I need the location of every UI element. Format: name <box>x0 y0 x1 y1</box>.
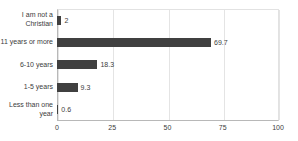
category-label-text: 11 years or more <box>1 38 53 47</box>
x-axis-tick-labels: 0 25 50 75 100 <box>57 124 279 136</box>
category-label-text: I am not a Christian <box>0 11 53 29</box>
category-label: I am not a Christian <box>0 9 53 31</box>
bar-series: 2 69.7 18.3 9.3 0.6 <box>57 9 279 121</box>
x-tick-label: 75 <box>219 124 227 131</box>
x-tick-label: 50 <box>164 124 172 131</box>
category-label: 1-5 years <box>0 76 53 98</box>
gridline <box>279 10 280 120</box>
x-tick-label: 25 <box>108 124 116 131</box>
bar-row: 0.6 <box>57 99 279 121</box>
bar-value-label: 69.7 <box>214 39 228 46</box>
category-label: 11 years or more <box>0 31 53 53</box>
bar-value-label: 9.3 <box>81 84 91 91</box>
category-label-text: Less than one year <box>0 101 53 119</box>
bar-value-label: 2 <box>64 17 68 24</box>
category-axis-labels: I am not a Christian 11 years or more 6-… <box>0 9 53 121</box>
bar-row: 2 <box>57 9 279 31</box>
bar <box>57 83 78 92</box>
bar <box>57 16 61 25</box>
category-label-text: 6-10 years <box>20 61 53 70</box>
category-label: 6-10 years <box>0 54 53 76</box>
bar-value-label: 18.3 <box>100 61 114 68</box>
bar-value-label: 0.6 <box>61 106 71 113</box>
category-label-text: 1-5 years <box>24 83 53 92</box>
bar <box>57 38 211 47</box>
bar <box>57 105 58 114</box>
bar-chart: I am not a Christian 11 years or more 6-… <box>0 0 298 141</box>
x-tick-label: 100 <box>272 124 284 131</box>
bar <box>57 60 97 69</box>
bar-row: 9.3 <box>57 76 279 98</box>
x-tick-label: 0 <box>55 124 59 131</box>
category-label: Less than one year <box>0 99 53 121</box>
bar-row: 69.7 <box>57 31 279 53</box>
bar-row: 18.3 <box>57 54 279 76</box>
